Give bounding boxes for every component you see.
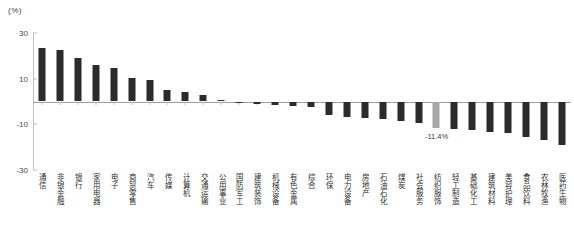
x-axis-category-label: 电子 [110, 173, 118, 189]
x-axis-category-label: 石油石化 [379, 173, 387, 205]
bar[interactable] [38, 48, 45, 102]
x-axis-category-label: 医药生物 [558, 173, 566, 205]
bar-slot[interactable] [481, 33, 499, 170]
y-axis-tick-label: -30 [16, 166, 28, 175]
x-axis-category-labels: 通信非银金融银行家用电器电子商贸零售汽车传媒计算机交通运输公用事业国防军工建筑装… [33, 173, 571, 225]
x-axis-category-label: 美容护理 [504, 173, 512, 205]
bar[interactable] [110, 68, 117, 102]
bar-slot[interactable] [338, 33, 356, 170]
bar[interactable] [469, 102, 476, 131]
bar[interactable] [505, 102, 512, 134]
x-axis-category-label: 建筑材料 [487, 173, 495, 205]
bar-slot[interactable] [194, 33, 212, 170]
bar[interactable] [523, 102, 530, 138]
x-axis-category-label: 通信 [38, 173, 46, 189]
x-axis-category-label: 非银金融 [56, 173, 64, 205]
bar[interactable] [307, 102, 314, 108]
bar-slot[interactable] [105, 33, 123, 170]
bar[interactable] [146, 80, 153, 102]
x-axis-tick-mark [203, 102, 204, 105]
bar-slot[interactable] [302, 33, 320, 170]
x-axis-tick-mark [149, 102, 150, 105]
bar-slot[interactable] [51, 33, 69, 170]
bar[interactable] [200, 95, 207, 102]
bar-slot[interactable] [499, 33, 517, 170]
bar[interactable] [325, 102, 332, 116]
x-axis-category-label: 银行 [74, 173, 82, 189]
bar[interactable] [164, 90, 171, 101]
x-axis-category-label: 商贸零售 [128, 173, 136, 205]
bar[interactable] [397, 102, 404, 121]
x-axis-category-label: 环保 [325, 173, 333, 189]
x-axis-tick-mark [77, 102, 78, 105]
x-axis-category-label: 传媒 [164, 173, 172, 189]
bar-slot[interactable] [248, 33, 266, 170]
bar[interactable] [361, 102, 368, 118]
bar-slot[interactable] [517, 33, 535, 170]
x-axis-category-label: 国防军工 [235, 173, 243, 205]
bar[interactable] [236, 102, 243, 103]
y-axis-unit-label: (%) [8, 6, 22, 15]
bar[interactable] [343, 102, 350, 117]
bar-slot[interactable] [33, 33, 51, 170]
x-axis-category-label: 纺织服饰 [433, 173, 441, 205]
x-axis-category-label: 煤炭 [397, 173, 405, 189]
bar[interactable] [182, 92, 189, 102]
bar-slot[interactable] [356, 33, 374, 170]
bar-slot[interactable] [87, 33, 105, 170]
x-axis-category-label: 家用电器 [92, 173, 100, 205]
y-axis-tick-label: 10 [19, 74, 28, 83]
bar-slot[interactable] [374, 33, 392, 170]
bar[interactable] [218, 100, 225, 101]
bar[interactable] [92, 65, 99, 102]
x-axis-category-label: 公用事业 [218, 173, 226, 205]
bar-slot[interactable] [159, 33, 177, 170]
bar-slot[interactable] [176, 33, 194, 170]
x-axis-category-label: 农林牧渔 [540, 173, 548, 205]
bar-slot[interactable] [212, 33, 230, 170]
x-axis-category-label: 有色金属 [289, 173, 297, 205]
bar-slot[interactable] [266, 33, 284, 170]
bar-slot[interactable] [320, 33, 338, 170]
bar-slot[interactable] [463, 33, 481, 170]
x-axis-category-label: 交通运输 [200, 173, 208, 205]
x-axis-category-label: 综合 [307, 173, 315, 189]
bar-slot[interactable] [230, 33, 248, 170]
bar[interactable] [74, 58, 81, 101]
bar[interactable] [487, 102, 494, 132]
bar-slot[interactable] [123, 33, 141, 170]
bar[interactable] [290, 102, 297, 107]
x-axis-tick-mark [185, 102, 186, 105]
bar[interactable] [451, 102, 458, 129]
bar-slot[interactable] [535, 33, 553, 170]
bar-slot[interactable] [69, 33, 87, 170]
x-axis-category-label: 汽车 [146, 173, 154, 189]
bar[interactable] [541, 102, 548, 140]
bar-slot[interactable] [428, 33, 446, 170]
x-axis-category-label: 机械设备 [271, 173, 279, 205]
bar-slot[interactable] [553, 33, 571, 170]
x-axis-category-label: 计算机 [182, 173, 190, 197]
plot-area: 3010-10-30 -11.4% [33, 33, 571, 170]
x-axis-tick-mark [167, 102, 168, 105]
bar[interactable] [128, 78, 135, 101]
bar[interactable] [254, 102, 261, 104]
x-axis-tick-mark [95, 102, 96, 105]
bar-slot[interactable] [141, 33, 159, 170]
bar[interactable] [272, 102, 279, 105]
bar[interactable] [433, 102, 440, 128]
bar-slot[interactable] [392, 33, 410, 170]
bar-series: -11.4% [33, 33, 571, 170]
bar[interactable] [56, 50, 63, 102]
bar-slot[interactable] [284, 33, 302, 170]
sector-performance-bar-chart: (%) 3010-10-30 -11.4% 通信非银金融银行家用电器电子商贸零售… [0, 0, 574, 225]
bar[interactable] [559, 102, 566, 145]
x-axis-category-label: 建筑装饰 [253, 173, 261, 205]
bar-slot[interactable] [410, 33, 428, 170]
bar-slot[interactable] [445, 33, 463, 170]
x-axis-tick-mark [131, 102, 132, 105]
bar[interactable] [415, 102, 422, 123]
x-axis-category-label: 轻工制造 [451, 173, 459, 205]
bar[interactable] [379, 102, 386, 120]
x-axis-category-label: 电力设备 [343, 173, 351, 205]
